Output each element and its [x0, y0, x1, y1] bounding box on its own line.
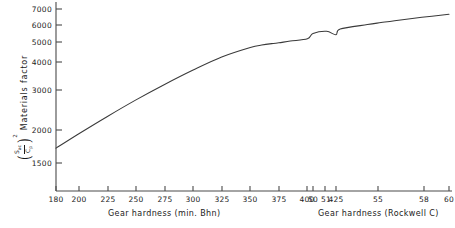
y-axis-title-group: ( Sac Cp ) 2 Materials factor [14, 38, 34, 178]
formula-denominator: Cp [25, 146, 34, 153]
x-tick-label-bhn: 325 [214, 195, 229, 204]
chart-plot-area [0, 0, 455, 228]
x-tick-label-bhn: 375 [271, 195, 286, 204]
materials-factor-chart: 7000 6000 5000 4000 3000 2000 1500 180 2… [0, 0, 455, 228]
x-tick-label-bhn: 250 [128, 195, 143, 204]
materials-factor-formula: ( Sac Cp ) 2 [14, 134, 34, 161]
x-tick-label-bhn: 180 [48, 195, 63, 204]
y-axis-ticks [56, 9, 62, 163]
y-tick-label: 7000 [8, 5, 52, 14]
x-tick-label-bhn: 350 [242, 195, 257, 204]
x-axis-ticks-bhn [56, 186, 336, 191]
x-axis-ticks-rockwell [313, 186, 449, 191]
x-tick-label-rockwell: 60 [444, 195, 454, 204]
x-tick-label-rockwell: 58 [419, 195, 429, 204]
formula-exponent: 2 [13, 134, 19, 138]
formula-numerator: Sac [14, 145, 23, 154]
x-tick-label-rockwell: 51 [321, 195, 331, 204]
x-tick-label-bhn: 300 [185, 195, 200, 204]
y-tick-label: 6000 [8, 21, 52, 30]
x-tick-label-rockwell: 55 [373, 195, 383, 204]
x-tick-label-bhn: 225 [100, 195, 115, 204]
x-tick-label-rockwell: 50 [308, 195, 318, 204]
y-axis-title-text: Materials factor [20, 55, 29, 130]
sac-over-cp-fraction: Sac Cp [14, 144, 34, 154]
x-tick-label-bhn: 275 [157, 195, 172, 204]
materials-factor-line [56, 14, 449, 148]
open-paren: ( [16, 155, 33, 160]
x-tick-label-bhn: 200 [71, 195, 86, 204]
close-paren: ) [16, 139, 33, 144]
x-axis-title-rockwell: Gear hardness (Rockwell C) [318, 209, 439, 218]
x-axis-title-bhn: Gear hardness (min. Bhn) [108, 209, 221, 218]
